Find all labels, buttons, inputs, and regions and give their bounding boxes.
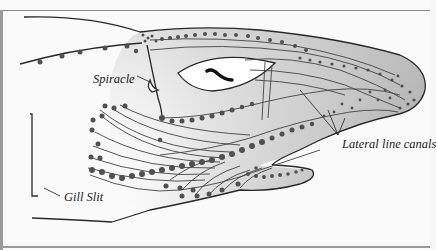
label-spiracle: Spiracle xyxy=(93,72,135,87)
label-lateral-line-canals: Lateral line canals xyxy=(342,137,436,152)
label-gill-slit: Gill Slit xyxy=(64,190,103,205)
